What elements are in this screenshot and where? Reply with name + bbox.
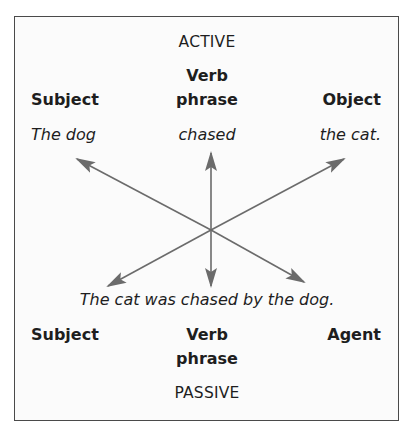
active-object-example: the cat. xyxy=(320,127,381,143)
passive-verb-label-line1: Verb xyxy=(186,327,228,343)
arrow-subject-to-agent xyxy=(77,159,304,282)
passive-sentence: The cat was chased by the dog. xyxy=(80,292,335,308)
arrow-object-to-subject xyxy=(108,159,344,286)
active-verb-label-line1: Verb xyxy=(186,68,228,84)
active-object-label: Object xyxy=(322,92,381,108)
active-heading: ACTIVE xyxy=(179,35,236,51)
active-subject-example: The dog xyxy=(31,127,96,143)
active-subject-label: Subject xyxy=(31,92,99,108)
passive-agent-label: Agent xyxy=(327,327,381,343)
active-verb-label-line2: phrase xyxy=(176,92,238,108)
passive-subject-label: Subject xyxy=(31,327,99,343)
active-verb-example: chased xyxy=(178,127,235,143)
passive-heading: PASSIVE xyxy=(174,386,239,402)
passive-verb-label-line2: phrase xyxy=(176,351,238,367)
